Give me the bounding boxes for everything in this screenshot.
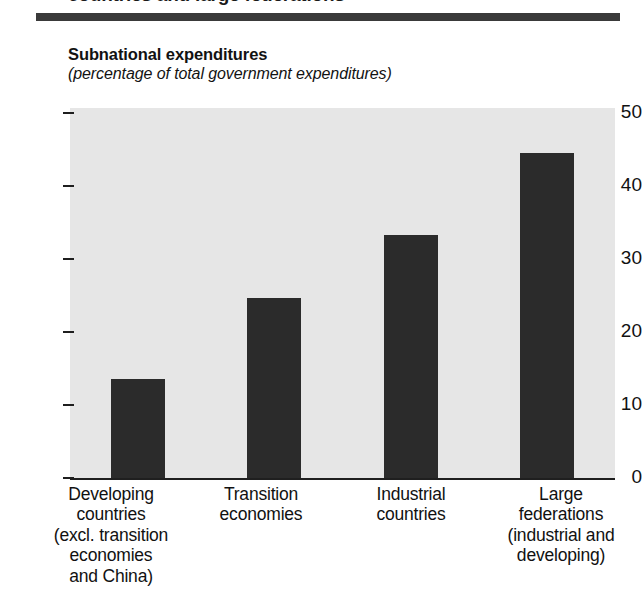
- page-heading: countries and large federations: [68, 0, 345, 6]
- y-axis-label: 50: [584, 102, 642, 121]
- y-axis-label: 40: [584, 175, 642, 194]
- y-axis-label: 10: [584, 394, 642, 413]
- category-label-line: developing): [488, 545, 634, 565]
- category-label: Largefederations(industrial anddevelopin…: [486, 484, 636, 609]
- page-heading-clip: countries and large federations: [0, 0, 642, 6]
- chart-page: countries and large federations Subnatio…: [0, 0, 642, 609]
- x-axis-line: [70, 478, 615, 480]
- category-label-line: federations: [488, 504, 634, 524]
- bar: [520, 153, 574, 478]
- chart-title: Subnational expenditures: [68, 45, 267, 64]
- category-label: Industrialcountries: [336, 484, 486, 609]
- bar: [247, 298, 301, 478]
- bar: [384, 235, 438, 478]
- y-axis-tick: [63, 258, 74, 260]
- category-label: Developingcountries(excl. transitionecon…: [36, 484, 186, 609]
- category-label-line: economies: [188, 504, 334, 524]
- category-label-line: (excl. transition: [38, 525, 184, 545]
- y-axis-tick: [63, 404, 74, 406]
- y-axis-tick: [63, 331, 74, 333]
- category-label-line: (industrial and: [488, 525, 634, 545]
- category-label-line: Industrial: [338, 484, 484, 504]
- category-label-line: countries: [338, 504, 484, 524]
- category-label-line: Large: [488, 484, 634, 504]
- category-label-line: Transition: [188, 484, 334, 504]
- category-label-line: countries: [38, 504, 184, 524]
- category-label-line: and China): [38, 566, 184, 586]
- category-label-line: economies: [38, 545, 184, 565]
- category-label-line: Developing: [38, 484, 184, 504]
- chart-subtitle: (percentage of total government expendit…: [68, 65, 392, 83]
- y-axis-tick: [63, 185, 74, 187]
- y-axis-label: 30: [584, 248, 642, 267]
- heading-rule: [36, 13, 620, 21]
- y-axis-tick: [63, 112, 74, 114]
- bar: [111, 379, 165, 478]
- category-label: Transitioneconomies: [186, 484, 336, 609]
- category-label-row: Developingcountries(excl. transitionecon…: [36, 484, 636, 609]
- y-axis-label: 20: [584, 321, 642, 340]
